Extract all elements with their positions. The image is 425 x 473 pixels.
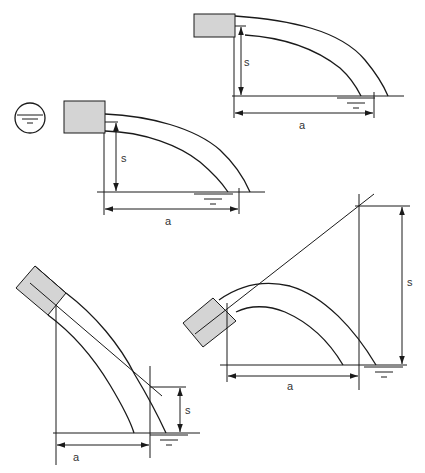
outer-jet-curve (105, 114, 250, 192)
outer-jet-curve (66, 293, 166, 433)
diagram-horizontal-jet-top: s a (194, 14, 404, 131)
water-surface-icon (337, 98, 375, 108)
diagram-inclined-up-jet: s a (183, 194, 413, 392)
height-label: s (244, 56, 250, 68)
jet-trajectory-figure: s a s a (0, 0, 425, 473)
nozzle (64, 101, 105, 133)
water-surface-icon (150, 435, 188, 445)
inner-jet-curve (236, 307, 343, 365)
distance-label: a (299, 119, 306, 131)
diagram-horizontal-jet-middle: s a (15, 101, 265, 227)
water-surface-icon (194, 194, 233, 204)
inner-jet-curve (245, 35, 361, 96)
outer-jet-curve (235, 16, 388, 96)
outer-jet-curve (219, 284, 376, 365)
height-label: s (121, 152, 127, 164)
distance-label: a (165, 215, 172, 227)
tangent-line (30, 283, 162, 396)
height-label: s (407, 276, 413, 288)
diagram-inclined-down-jet: s a (16, 266, 200, 465)
distance-label: a (287, 380, 294, 392)
inner-jet-curve (48, 315, 134, 433)
height-label: s (185, 404, 191, 416)
distance-label: a (73, 451, 80, 463)
nozzle (194, 14, 235, 37)
water-level-circle-icon (15, 103, 45, 133)
water-surface-icon (364, 367, 403, 377)
tangent-line (195, 194, 374, 334)
